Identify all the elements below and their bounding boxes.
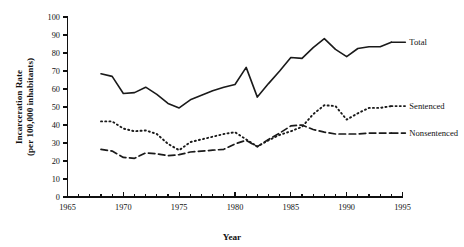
incarceration-rate-line-chart: 0102030405060708090100 19651970197519801…	[0, 0, 464, 247]
y-axis-tick-labels: 0102030405060708090100	[48, 13, 60, 202]
series-line-total	[101, 39, 391, 108]
x-axis-tick-labels: 1965197019751980198519901995	[59, 203, 411, 212]
x-axis-tick-label: 1995	[394, 203, 411, 212]
x-axis-tick-label: 1990	[338, 203, 355, 212]
y-axis-title-line2: (per 100,000 inhabitants)	[25, 58, 35, 156]
x-axis-tick-label: 1970	[115, 203, 132, 212]
y-axis-tick-label: 40	[52, 121, 60, 130]
y-axis: 0102030405060708090100	[48, 13, 68, 202]
series-label-total: Total	[409, 37, 427, 47]
x-axis-title: Year	[223, 232, 241, 242]
data-series-group	[101, 39, 405, 159]
x-axis-tick-label: 1980	[227, 203, 244, 212]
series-line-sentenced	[101, 105, 391, 150]
y-axis-tick-label: 0	[56, 193, 60, 202]
series-label-nonsentenced: Nonsentenced	[409, 128, 458, 138]
y-axis-tick-label: 60	[52, 85, 60, 94]
y-axis-tick-label: 100	[48, 13, 60, 22]
series-inline-labels: TotalSentencedNonsentenced	[409, 37, 458, 138]
x-axis-tick-label: 1985	[283, 203, 300, 212]
chart-figure: 0102030405060708090100 19651970197519801…	[0, 0, 464, 247]
y-axis-tick-label: 10	[52, 175, 60, 184]
x-axis-tick-label: 1965	[59, 203, 76, 212]
y-axis-tick-label: 90	[52, 31, 60, 40]
x-axis: 1965197019751980198519901995	[59, 192, 411, 212]
y-axis-tick-label: 70	[52, 67, 60, 76]
series-label-sentenced: Sentenced	[409, 101, 445, 111]
y-axis-title-line1: Incarceration Rate	[14, 70, 24, 144]
y-axis-tick-label: 20	[52, 157, 60, 166]
y-axis-tick-label: 50	[52, 103, 60, 112]
y-axis-tick-label: 30	[52, 139, 60, 148]
x-axis-tick-label: 1975	[171, 203, 188, 212]
y-axis-tick-label: 80	[52, 49, 60, 58]
